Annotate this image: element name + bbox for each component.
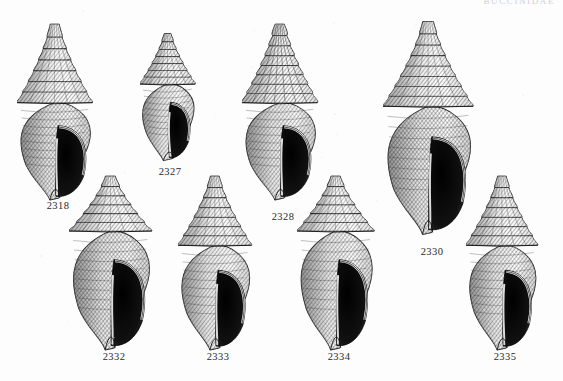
paper-speck: [124, 172, 126, 174]
paper-speck: [251, 66, 253, 68]
paper-speck: [321, 157, 322, 158]
shell-illustration-2327: [140, 32, 200, 162]
figure-caption-2327: 2327: [159, 166, 182, 177]
figure-caption-2332: 2332: [103, 351, 126, 362]
paper-speck: [42, 377, 43, 378]
paper-speck: [215, 113, 217, 115]
figure-caption-2318: 2318: [47, 200, 70, 211]
paper-speck: [333, 22, 335, 24]
paper-speck: [68, 321, 70, 323]
figure-caption-2330: 2330: [421, 246, 444, 257]
paper-speck: [490, 211, 491, 212]
paper-speck: [346, 0, 347, 1]
shell-illustration-2334: [297, 174, 381, 352]
figure-caption-2334: 2334: [328, 351, 351, 362]
paper-speck: [82, 10, 84, 12]
paper-speck: [253, 30, 255, 32]
paper-speck: [415, 24, 417, 26]
paper-speck: [142, 111, 144, 113]
paper-speck: [331, 198, 332, 199]
figure-caption-2328: 2328: [272, 211, 295, 222]
shell-illustration-2332: [69, 174, 159, 352]
running-head: BUCCINIDAE: [484, 0, 556, 6]
illustration-plate: BUCCINIDAE 23182327232823302332233323342…: [0, 0, 563, 381]
paper-speck: [334, 113, 336, 115]
shell-illustration-2335: [466, 174, 544, 352]
paper-speck: [522, 94, 524, 96]
paper-speck: [336, 134, 338, 136]
paper-speck: [40, 255, 42, 257]
shell-illustration-2333: [178, 174, 258, 352]
figure-caption-2335: 2335: [494, 351, 517, 362]
figure-caption-2333: 2333: [207, 351, 230, 362]
paper-speck: [556, 22, 557, 23]
paper-speck: [224, 217, 225, 218]
